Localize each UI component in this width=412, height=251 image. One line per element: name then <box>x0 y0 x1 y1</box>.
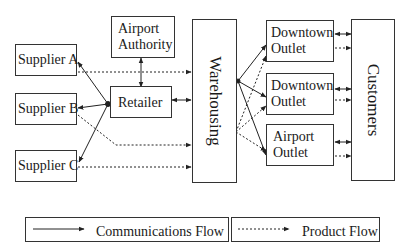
comm-retailer-supplier-b <box>78 104 108 108</box>
product-warehousing-airport-outlet <box>236 132 266 151</box>
node-warehousing: Warehousing <box>192 19 237 183</box>
product-warehousing-downtown-2 <box>236 106 266 132</box>
node-label: Downtown Outlet <box>271 25 333 57</box>
node-airport-outlet: Airport Outlet <box>266 124 334 166</box>
node-retailer: Retailer <box>110 86 172 118</box>
node-label: Warehousing <box>207 56 223 145</box>
node-label: Supplier B <box>18 101 78 117</box>
comm-warehousing-downtown-1 <box>238 45 266 81</box>
node-supplier-b: Supplier B <box>15 93 77 125</box>
comm-retailer-supplier-a <box>78 62 108 104</box>
node-supplier-c: Supplier C <box>15 150 77 182</box>
node-label: Airport Authority <box>118 21 172 53</box>
node-customers: Customers <box>351 19 395 181</box>
node-label: Supplier A <box>18 52 78 68</box>
node-label: Customers <box>365 64 381 137</box>
node-downtown-outlet-1: Downtown Outlet <box>266 20 334 62</box>
comm-retailer-supplier-c <box>79 104 108 162</box>
node-downtown-outlet-2: Downtown Outlet <box>266 73 334 115</box>
legend-product-label: Product Flow <box>302 224 378 240</box>
node-label: Retailer <box>118 95 162 111</box>
legend-communications: Communications Flow <box>25 217 229 242</box>
node-label: Downtown Outlet <box>271 78 333 110</box>
comm-warehousing-downtown-2 <box>238 81 266 97</box>
node-label: Supplier C <box>18 158 78 174</box>
node-airport-authority: Airport Authority <box>111 16 175 58</box>
node-supplier-a: Supplier A <box>15 44 77 76</box>
node-label: Airport Outlet <box>273 129 314 161</box>
legend-communications-label: Communications Flow <box>96 224 224 240</box>
legend-product: Product Flow <box>231 217 380 242</box>
